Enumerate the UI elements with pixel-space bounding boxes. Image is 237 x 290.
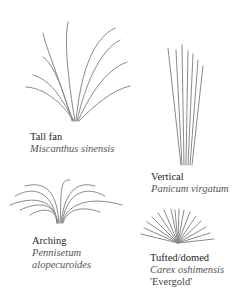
- vertical-scientific-name: Panicum virgatum: [151, 183, 228, 195]
- tufted-domed-scientific-name: Carex oshimensis: [150, 264, 224, 276]
- tall-fan-label: Tall fan: [30, 131, 62, 143]
- arching-label: Arching: [32, 235, 66, 247]
- vertical-illustration: [168, 45, 203, 165]
- arching-scientific-name-line2: alopecuroides: [32, 259, 91, 271]
- arching-scientific-name-line1: Pennisetum: [32, 247, 81, 259]
- tall-fan-scientific-name: Miscanthus sinensis: [30, 143, 114, 155]
- tufted-domed-label: Tufted/domed: [150, 252, 209, 264]
- tufted-domed-illustration: [141, 209, 214, 243]
- tufted-domed-cultivar: 'Evergold': [150, 276, 192, 288]
- vertical-label: Vertical: [151, 171, 184, 183]
- arching-illustration: [10, 180, 122, 223]
- tall-fan-illustration: [26, 22, 130, 121]
